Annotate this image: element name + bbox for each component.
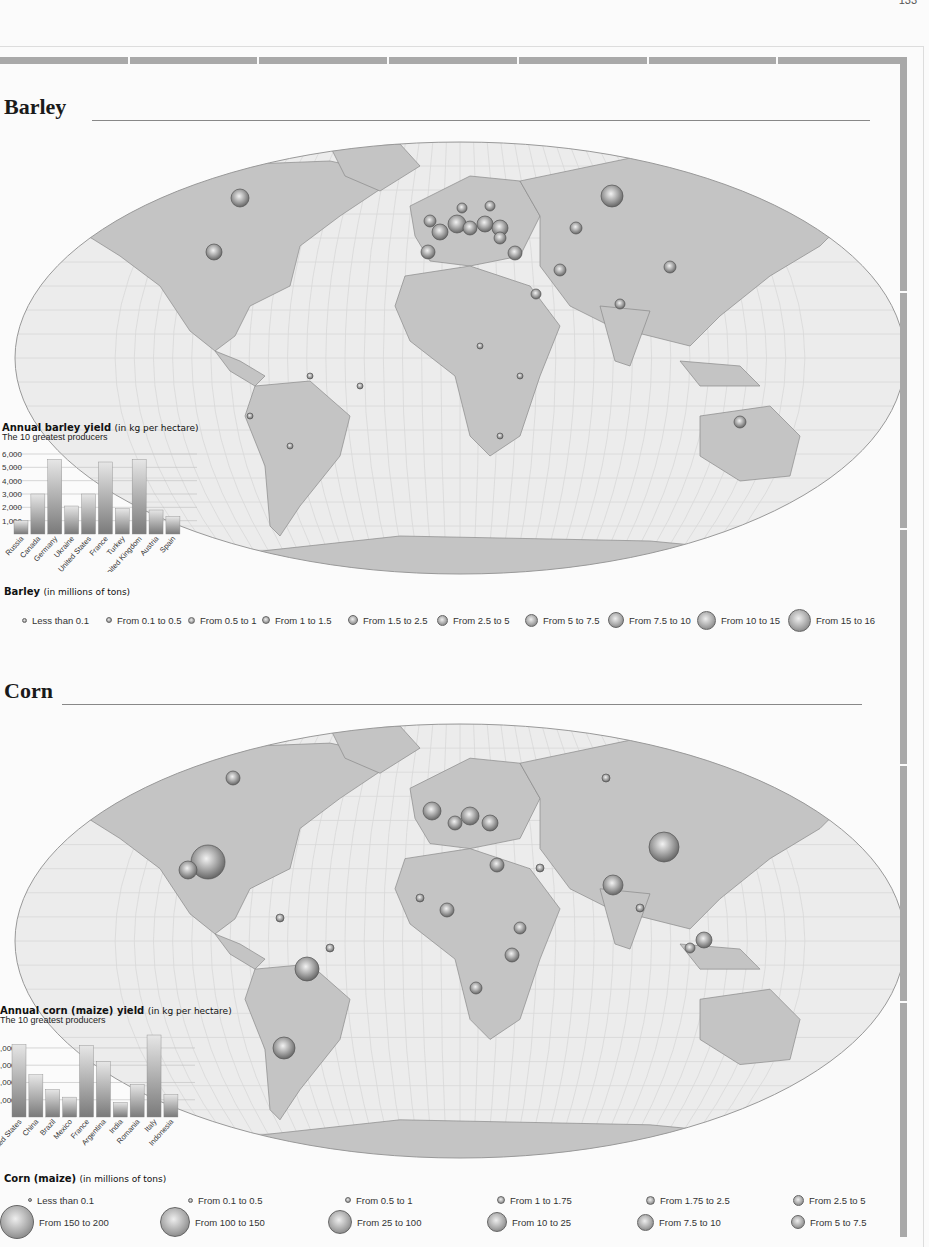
legend-item: From 0.5 to 1 <box>345 1197 413 1203</box>
legend-item: From 150 to 200 <box>0 1205 109 1239</box>
chart-subtitle: The 10 greatest producers <box>2 432 202 442</box>
legend-item: From 25 to 100 <box>328 1210 421 1234</box>
legend-label: From 2.5 to 5 <box>453 615 510 626</box>
legend-label: From 1.75 to 2.5 <box>660 1195 730 1206</box>
bubble-size-icon <box>188 617 195 624</box>
bubble-size-icon <box>637 1214 654 1231</box>
bubble-size-icon <box>608 612 624 628</box>
legend-item: From 0.5 to 1 <box>188 617 257 624</box>
bubble-size-icon <box>525 614 538 627</box>
legend-item: From 2.5 to 5 <box>793 1195 866 1206</box>
bubble-size-icon <box>0 1205 34 1239</box>
legend-label: From 7.5 to 10 <box>629 615 691 626</box>
legend-item: From 1 to 1.75 <box>497 1196 572 1204</box>
bubble-size-icon <box>345 1197 351 1203</box>
legend-item: From 10 to 25 <box>487 1212 571 1232</box>
legend-item: Less than 0.1 <box>22 618 89 623</box>
page-number: 133 <box>899 0 917 6</box>
legend-item: From 1.5 to 2.5 <box>348 615 427 625</box>
legend-item: From 0.1 to 0.5 <box>188 1198 262 1203</box>
frame-right-bar <box>900 57 907 1237</box>
bubble-size-icon <box>646 1196 655 1205</box>
chart-subtitle: The 10 greatest producers <box>0 1015 205 1025</box>
bubble-size-icon <box>437 615 448 626</box>
bubble-size-icon <box>22 618 27 623</box>
bubble-size-icon <box>348 615 358 625</box>
frame-top-bar <box>0 57 906 64</box>
legend-item: Less than 0.1 <box>28 1198 94 1202</box>
bar-chart-plot: ,000,000,000,000United StatesChinaBrazil… <box>0 1025 205 1165</box>
legend-item: From 2.5 to 5 <box>437 615 510 626</box>
svg-text:United States: United States <box>0 1117 24 1157</box>
title-rule <box>62 704 862 705</box>
legend-label: From 1 to 1.75 <box>510 1195 572 1206</box>
bubble-size-icon <box>788 609 811 632</box>
svg-text:5,000: 5,000 <box>2 463 23 472</box>
legend-label: From 7.5 to 10 <box>659 1217 721 1228</box>
legend-label: From 10 to 25 <box>512 1217 571 1228</box>
legend-label: From 1.5 to 2.5 <box>363 615 427 626</box>
legend-label: Less than 0.1 <box>32 615 89 626</box>
legend-label: From 150 to 200 <box>39 1217 109 1228</box>
barley-legend-title: Barley (in millions of tons) <box>4 586 130 597</box>
bubble-size-icon <box>188 1198 193 1203</box>
svg-text:4,000: 4,000 <box>2 477 23 486</box>
legend-label: From 5 to 7.5 <box>810 1217 867 1228</box>
legend-item: From 100 to 150 <box>160 1207 265 1237</box>
legend-label: From 0.5 to 1 <box>200 615 257 626</box>
svg-text:6,000: 6,000 <box>2 450 23 459</box>
bubble-size-icon <box>160 1207 190 1237</box>
legend-item: From 0.1 to 0.5 <box>106 617 181 623</box>
svg-text:Austria: Austria <box>138 534 161 558</box>
legend-item: From 10 to 15 <box>697 611 780 630</box>
legend-label: From 15 to 16 <box>816 615 875 626</box>
bubble-size-icon <box>106 617 112 623</box>
legend-label: From 5 to 7.5 <box>543 615 600 626</box>
title-rule <box>92 120 870 121</box>
legend-item: From 15 to 16 <box>788 609 875 632</box>
svg-text:3,000: 3,000 <box>2 490 23 499</box>
legend-label: From 2.5 to 5 <box>809 1195 866 1206</box>
legend-label: From 0.1 to 0.5 <box>198 1195 262 1206</box>
legend-item: From 1.75 to 2.5 <box>646 1196 730 1205</box>
legend-label: From 25 to 100 <box>357 1217 421 1228</box>
legend-item: From 5 to 7.5 <box>525 614 600 627</box>
section-title-barley: Barley <box>4 94 66 120</box>
legend-label: From 0.5 to 1 <box>356 1195 413 1206</box>
bubble-size-icon <box>793 1195 804 1206</box>
legend-item: From 7.5 to 10 <box>608 612 691 628</box>
bubble-size-icon <box>28 1198 32 1202</box>
bubble-size-icon <box>328 1210 352 1234</box>
bubble-size-icon <box>487 1212 507 1232</box>
legend-label: From 10 to 15 <box>721 615 780 626</box>
bubble-size-icon <box>497 1196 505 1204</box>
bubble-size-icon <box>262 616 270 624</box>
svg-text:Spain: Spain <box>158 534 178 554</box>
legend-label: From 0.1 to 0.5 <box>117 615 181 626</box>
legend-item: From 1 to 1.5 <box>262 616 332 624</box>
legend-label: Less than 0.1 <box>37 1195 94 1206</box>
bar-chart-plot: 6,0005,0004,0003,0002,0001,000RussiaCana… <box>2 442 202 572</box>
svg-text:France: France <box>88 534 110 557</box>
legend-item: From 5 to 7.5 <box>791 1215 867 1229</box>
legend-label: From 100 to 150 <box>195 1217 265 1228</box>
corn-yield-chart: Annual corn (maize) yield (in kg per hec… <box>0 1005 205 1165</box>
legend-label: From 1 to 1.5 <box>275 615 332 626</box>
svg-text:China: China <box>21 1117 41 1138</box>
barley-yield-chart: Annual barley yield (in kg per hectare) … <box>2 422 202 582</box>
bubble-size-icon <box>697 611 716 630</box>
legend-item: From 7.5 to 10 <box>637 1214 721 1231</box>
corn-legend-title: Corn (maize) (in millions of tons) <box>4 1173 166 1184</box>
bubble-size-icon <box>791 1215 805 1229</box>
section-title-corn: Corn <box>4 678 53 704</box>
svg-text:2,000: 2,000 <box>2 503 23 512</box>
